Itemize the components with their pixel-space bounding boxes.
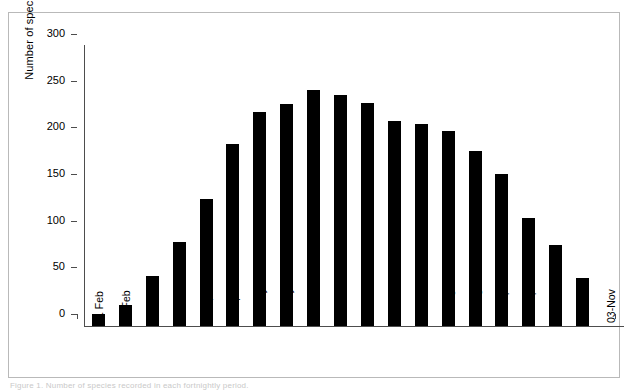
y-tick-mark: [71, 34, 77, 35]
x-axis-line: [84, 326, 624, 327]
x-tick-label: 06-Oct: [552, 291, 563, 323]
bar-series: [85, 46, 623, 326]
x-tick-label: 30-Jun: [363, 291, 374, 323]
x-tick-label: 16-Jun: [337, 291, 348, 323]
y-tick-mark: [71, 127, 77, 128]
x-tick-label: 11 Feb: [94, 291, 105, 323]
x-tick-label: 22-Sep: [525, 289, 536, 323]
x-tick-label: 02-Jun: [310, 291, 321, 323]
x-tick-label: 10-Mar: [148, 290, 159, 323]
y-tick-label: 150: [31, 168, 65, 179]
y-tick-label: 100: [31, 215, 65, 226]
figure-caption: Figure 1. Number of species recorded in …: [10, 381, 249, 390]
y-tick-label: 250: [31, 75, 65, 86]
y-tick-mark: [71, 221, 77, 222]
y-tick-label: 300: [31, 28, 65, 39]
y-axis-title: Number of species: [23, 0, 35, 113]
x-tick-label: 21-Apr: [229, 291, 240, 323]
x-tick-label: 28-Jul: [417, 294, 428, 323]
x-tick-label: 08-Sep: [498, 289, 509, 323]
y-tick-mark: [71, 81, 77, 82]
y-tick-mark: [71, 267, 77, 268]
x-tick-label: 03-Nov: [606, 289, 617, 323]
x-tick-label: 24-Mar: [175, 290, 186, 323]
y-tick-mark: [71, 174, 77, 175]
x-tick-mark: [77, 314, 78, 319]
y-tick-label: 50: [31, 261, 65, 272]
x-tick-label: 11-Aug: [444, 290, 455, 323]
x-tick-label: 25-Aug: [471, 289, 482, 323]
y-tick-label: 0: [31, 308, 65, 319]
x-tick-label: 07-Apr: [202, 291, 213, 323]
x-tick-label: 14-Jul: [390, 294, 401, 323]
x-tick-label: 20-Oct: [579, 291, 590, 323]
x-tick-label: 19-May: [283, 288, 294, 323]
x-tick-label: 25 Feb: [121, 290, 132, 323]
y-tick-label: 200: [31, 121, 65, 132]
x-tick-label: 05-May: [256, 288, 267, 323]
figure-panel: Number of species 050100150200250300 11 …: [8, 12, 620, 378]
